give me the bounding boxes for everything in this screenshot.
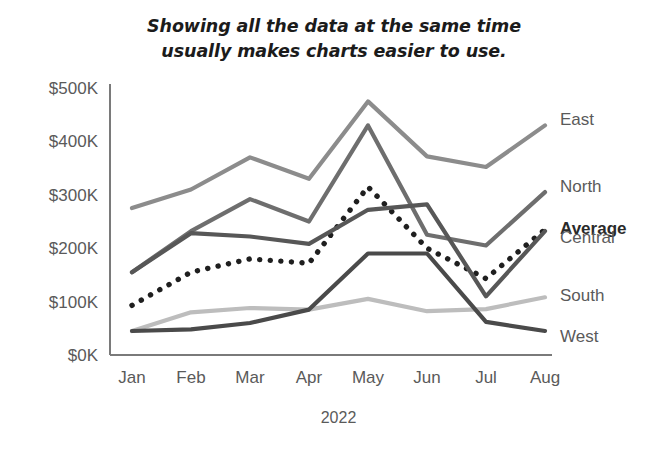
x-axis-tick-label: May: [352, 368, 385, 387]
x-axis-tick-label: Mar: [235, 368, 265, 387]
line-chart-plot: $0K$100K$200K$300K$400K$500KJanFebMarApr…: [0, 0, 668, 454]
y-axis-tick-label: $500K: [49, 79, 99, 98]
x-axis-tick-label: Jul: [475, 368, 497, 387]
series-line-east: [132, 101, 545, 208]
y-axis-tick-label: $0K: [68, 346, 99, 365]
x-axis-tick-label: Aug: [530, 368, 560, 387]
x-axis-tick-label: Feb: [176, 368, 205, 387]
y-axis-tick-label: $400K: [49, 132, 99, 151]
y-axis-tick-label: $200K: [49, 239, 99, 258]
x-axis-tick-label: Apr: [296, 368, 323, 387]
series-label-north: North: [560, 177, 602, 196]
series-line-north: [132, 125, 545, 272]
y-axis-tick-label: $100K: [49, 293, 99, 312]
y-axis-tick-label: $300K: [49, 186, 99, 205]
x-axis-tick-label: Jan: [118, 368, 145, 387]
series-line-south: [132, 297, 545, 331]
series-label-west: West: [560, 327, 599, 346]
chart-container: Showing all the data at the same time us…: [0, 0, 668, 454]
x-axis-title: 2022: [321, 409, 357, 426]
series-label-east: East: [560, 110, 594, 129]
series-label-south: South: [560, 286, 604, 305]
series-label-central: Central: [560, 228, 615, 247]
x-axis-tick-label: Jun: [413, 368, 440, 387]
